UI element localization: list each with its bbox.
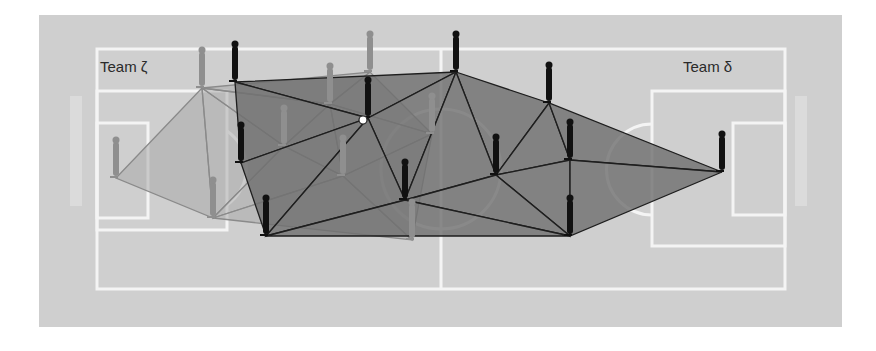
pitch-svg xyxy=(0,0,876,351)
right-goal xyxy=(795,96,807,206)
pitch-diagram: Team ζ Team δ xyxy=(0,0,876,351)
team-zeta-label: Team ζ xyxy=(100,58,147,75)
team-delta-label: Team δ xyxy=(683,58,732,75)
ball-icon xyxy=(359,116,367,124)
left-goal xyxy=(70,96,82,206)
